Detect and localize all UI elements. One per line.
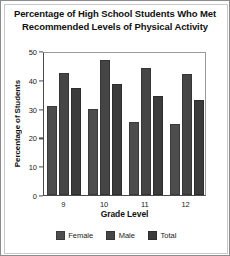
- y-axis-ticks: 01020304050: [1, 52, 43, 196]
- bar: [182, 74, 192, 195]
- bar: [71, 88, 81, 195]
- y-tick-label: 20: [29, 134, 37, 143]
- legend-item: Male: [106, 231, 135, 240]
- x-tick-label: 10: [100, 200, 108, 209]
- chart-title-line-2: Recommended Levels of Physical Activity: [9, 21, 221, 34]
- bar: [112, 84, 122, 195]
- x-tick-label: 9: [61, 200, 65, 209]
- legend-item: Total: [148, 231, 176, 240]
- legend-label: Total: [160, 231, 176, 240]
- legend-item: Female: [56, 231, 94, 240]
- legend-swatch: [148, 231, 157, 240]
- bar: [194, 100, 204, 195]
- bar-group: [126, 53, 167, 195]
- bar: [170, 124, 180, 195]
- x-tick-label: 11: [141, 200, 149, 209]
- chart-figure: Percentage of High School Students Who M…: [0, 0, 230, 256]
- bar: [88, 109, 98, 195]
- bar: [141, 68, 151, 195]
- y-tick-label: 30: [29, 105, 37, 114]
- bar: [129, 122, 139, 195]
- bar: [153, 96, 163, 195]
- legend-label: Female: [68, 231, 93, 240]
- x-tick-label: 12: [181, 200, 189, 209]
- chart-title: Percentage of High School Students Who M…: [9, 8, 221, 33]
- plot-area: [43, 52, 206, 196]
- bar-group: [85, 53, 126, 195]
- legend-swatch: [56, 231, 65, 240]
- y-tick-label: 50: [29, 48, 37, 57]
- x-axis-label: Grade Level: [43, 209, 206, 219]
- bars-layer: [44, 53, 205, 195]
- bar: [47, 106, 57, 195]
- y-tick-label: 0: [33, 192, 37, 201]
- x-axis-ticks: 9101112: [43, 196, 206, 210]
- bar-group: [166, 53, 207, 195]
- y-tick-label: 40: [29, 76, 37, 85]
- bar: [100, 60, 110, 195]
- legend-label: Male: [119, 231, 135, 240]
- chart-legend: FemaleMaleTotal: [21, 231, 211, 240]
- bar-group: [44, 53, 85, 195]
- bar: [59, 73, 69, 195]
- legend-swatch: [106, 231, 115, 240]
- y-tick-label: 10: [29, 163, 37, 172]
- chart-title-line-1: Percentage of High School Students Who M…: [14, 8, 216, 19]
